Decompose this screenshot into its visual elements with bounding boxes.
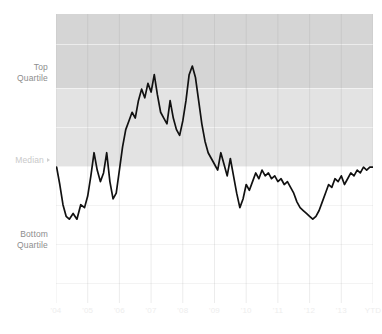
y-label-bottom-quartile-line1: Bottom	[0, 229, 48, 240]
x-tick-label-04: '04	[43, 306, 69, 315]
y-label-top-quartile: Top Quartile	[0, 62, 48, 83]
quartile-performance-chart: Top Quartile Median Bottom Quartile '04'…	[0, 0, 382, 334]
vertical-gridlines	[56, 14, 373, 303]
y-label-top-quartile-line1: Top	[0, 62, 48, 73]
x-tick-label-08: '08	[170, 306, 196, 315]
median-marker-icon	[47, 158, 50, 162]
plot-area	[56, 14, 373, 303]
x-axis-labels: '04'05'06'07'08'09'10'11'12'13YTD	[56, 306, 373, 322]
x-tick-label-YTD: YTD	[360, 306, 382, 315]
x-tick-label-10: '10	[233, 306, 259, 315]
y-label-median: Median	[0, 155, 44, 166]
x-tick-label-13: '13	[328, 306, 354, 315]
y-label-bottom-quartile: Bottom Quartile	[0, 229, 48, 250]
series-layer	[56, 14, 373, 303]
x-tick-label-06: '06	[106, 306, 132, 315]
y-label-bottom-quartile-line2: Quartile	[0, 240, 48, 251]
x-tick-label-11: '11	[265, 306, 291, 315]
x-tick-label-12: '12	[297, 306, 323, 315]
x-tick-label-09: '09	[202, 306, 228, 315]
x-tick-label-05: '05	[75, 306, 101, 315]
y-label-top-quartile-line2: Quartile	[0, 73, 48, 84]
x-tick-label-07: '07	[138, 306, 164, 315]
